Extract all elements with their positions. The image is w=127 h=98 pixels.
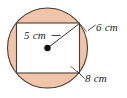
height-leader-line <box>88 25 96 31</box>
width-leader-line <box>77 71 85 79</box>
geometry-figure: 5 cm 6 cm 8 cm <box>0 0 127 98</box>
width-dimension-label: 8 cm <box>85 73 107 84</box>
radius-dimension-label: 5 cm <box>24 30 46 41</box>
circle-center-dot <box>44 45 50 51</box>
height-dimension-label: 6 cm <box>96 22 118 33</box>
figure-canvas <box>0 0 127 98</box>
